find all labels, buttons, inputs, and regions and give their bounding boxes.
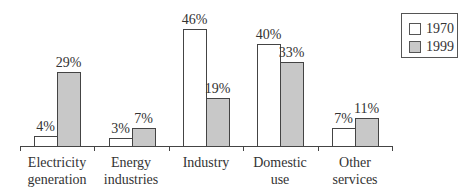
bar-1970 (332, 128, 356, 147)
bar-1999 (57, 72, 81, 147)
legend-label: 1999 (426, 40, 454, 54)
bar-chart: 4%29%Electricitygeneration3%7%Energyindu… (0, 0, 475, 194)
category-label: Energyindustries (94, 154, 168, 188)
legend-item-1999: 1999 (409, 40, 454, 54)
legend-label: 1970 (426, 22, 454, 36)
bar-value-label: 11% (347, 102, 387, 116)
bar-value-label: 29% (49, 56, 89, 70)
legend-item-1970: 1970 (409, 22, 454, 36)
bar-1970 (109, 138, 133, 147)
bar-value-label: 19% (198, 82, 238, 96)
bar-value-label: 40% (249, 28, 289, 42)
bar-1999 (132, 128, 156, 147)
legend-swatch-1999 (409, 41, 421, 53)
x-axis-tick (392, 146, 393, 151)
bar-value-label: 46% (175, 13, 215, 27)
legend-swatch-1970 (409, 23, 421, 35)
x-axis-tick (169, 146, 170, 151)
x-axis-tick (243, 146, 244, 151)
legend: 1970 1999 (401, 13, 458, 58)
bar-1999 (355, 118, 379, 147)
category-label: Otherservices (318, 154, 392, 188)
x-axis-tick (318, 146, 319, 151)
category-label: Electricitygeneration (20, 154, 94, 188)
bar-1999 (280, 62, 304, 147)
category-label: Industry (169, 154, 243, 171)
bar-value-label: 33% (272, 46, 312, 60)
category-label: Domesticuse (243, 154, 317, 188)
x-axis-tick (20, 146, 21, 151)
bar-1999 (206, 98, 230, 147)
bar-1970 (34, 136, 58, 147)
x-axis-tick (94, 146, 95, 151)
bar-value-label: 7% (124, 112, 164, 126)
